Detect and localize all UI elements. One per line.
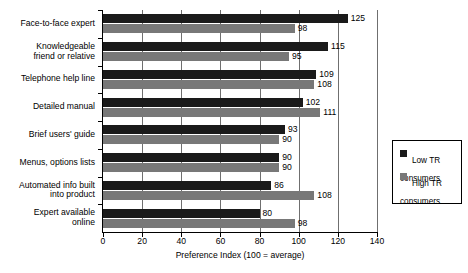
y-axis-tick [98, 66, 103, 67]
category-label: Brief users' guide [0, 130, 95, 140]
bar-low [103, 125, 285, 134]
x-axis-title: Preference Index (100 = average) [103, 250, 377, 260]
bar-value-label: 80 [263, 209, 273, 218]
bar-high [103, 163, 279, 172]
plot-area: 125981159510910810211193909090861088098 … [103, 10, 377, 232]
bar-high [103, 191, 314, 200]
y-axis-tick [98, 38, 103, 39]
y-axis-tick [98, 121, 103, 122]
bar-low [103, 42, 328, 51]
bar-group: 12598 [103, 14, 377, 33]
bar-group: 109108 [103, 70, 377, 89]
bar-group: 9390 [103, 125, 377, 144]
category-label: Automated info built into product [0, 181, 95, 201]
bar-group: 102111 [103, 98, 377, 117]
bar-value-label: 93 [288, 125, 298, 134]
category-label: Face-to-face expert [0, 19, 95, 29]
y-axis-tick [98, 149, 103, 150]
x-tick-label: 60 [200, 236, 240, 246]
preference-index-bar-chart: Face-to-face expertKnowledgeable friend … [0, 0, 468, 273]
bar-value-label: 111 [323, 108, 336, 117]
bar-value-label: 95 [292, 52, 302, 61]
bar-group: 11595 [103, 42, 377, 61]
x-tick-label: 80 [240, 236, 280, 246]
bar-low [103, 14, 348, 23]
bar-value-label: 108 [317, 191, 331, 200]
bar-value-label: 98 [298, 24, 308, 33]
bar-group: 86108 [103, 181, 377, 200]
bar-low [103, 209, 260, 218]
bar-low [103, 98, 303, 107]
bar-high [103, 108, 320, 117]
x-tick-label: 40 [161, 236, 201, 246]
bar-value-label: 125 [351, 14, 365, 23]
chart-legend: Low TR consumers High TR consumers [392, 140, 462, 204]
legend-item-high-tr: High TR consumers [400, 172, 460, 208]
category-label: Expert available online [0, 208, 95, 228]
y-axis-tick [98, 10, 103, 11]
legend-swatch-icon [400, 173, 407, 180]
bar-value-label: 86 [274, 181, 284, 190]
bar-low [103, 153, 279, 162]
category-label: Knowledgeable friend or relative [0, 42, 95, 62]
bar-value-label: 108 [317, 80, 331, 89]
y-axis-tick [98, 93, 103, 94]
category-label: Telephone help line [0, 74, 95, 84]
category-label: Menus, options lists [0, 158, 95, 168]
y-axis-tick [98, 204, 103, 205]
bar-high [103, 219, 295, 228]
gridline [377, 10, 378, 232]
bar-high [103, 24, 295, 33]
x-tick-label: 0 [83, 236, 123, 246]
x-tick-label: 20 [122, 236, 162, 246]
bar-group: 8098 [103, 209, 377, 228]
x-tick-label: 120 [318, 236, 358, 246]
bar-value-label: 115 [331, 42, 345, 51]
bar-value-label: 102 [306, 98, 320, 107]
bar-value-label: 109 [319, 70, 333, 79]
bar-high [103, 52, 289, 61]
x-axis-line [102, 232, 378, 233]
category-label: Detailed manual [0, 102, 95, 112]
bar-value-label: 90 [282, 153, 292, 162]
legend-swatch-icon [400, 150, 407, 157]
bar-value-label: 90 [282, 135, 292, 144]
bar-value-label: 90 [282, 163, 292, 172]
bar-group: 9090 [103, 153, 377, 172]
y-axis-tick [98, 177, 103, 178]
bar-high [103, 135, 279, 144]
legend-label: High TR consumers [400, 179, 442, 206]
bar-high [103, 80, 314, 89]
category-axis-labels: Face-to-face expertKnowledgeable friend … [0, 10, 99, 232]
x-tick-labels: 020406080100120140 [103, 236, 377, 250]
x-tick-label: 100 [279, 236, 319, 246]
bar-value-label: 98 [298, 219, 308, 228]
bar-low [103, 70, 316, 79]
x-tick-label: 140 [357, 236, 397, 246]
bar-low [103, 181, 271, 190]
